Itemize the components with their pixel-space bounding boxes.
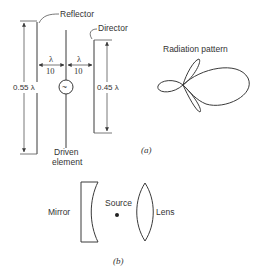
- spacing-dimension-right: λ 10: [68, 54, 92, 76]
- source-symbol: ~: [62, 82, 67, 92]
- optical-analogy-diagram: Mirror Source Lens (b): [48, 182, 174, 266]
- reflector-leader: [39, 14, 59, 23]
- radiation-pattern-label: Radiation pattern: [163, 44, 228, 54]
- lens-label: Lens: [156, 207, 174, 217]
- director-label: Director: [98, 23, 128, 33]
- yagi-antenna-diagram: 0.55 λ Reflector ~ Driven element λ 10 λ…: [12, 9, 249, 167]
- reflector-length-label: 0.55 λ: [13, 83, 35, 92]
- mirror-shape: [81, 182, 98, 242]
- svg-text:λ: λ: [49, 54, 54, 64]
- driven-element-label-line1: Driven: [54, 147, 79, 157]
- mirror-label: Mirror: [48, 207, 70, 217]
- svg-text:10: 10: [46, 66, 55, 76]
- source-label: Source: [105, 198, 132, 208]
- svg-text:10: 10: [74, 66, 83, 76]
- reflector-label: Reflector: [60, 9, 94, 19]
- driven-element-label-line2: element: [52, 157, 83, 167]
- spacing-dimension-left: λ 10: [39, 54, 64, 76]
- director-leader: [90, 29, 97, 39]
- radiation-pattern-plot: [158, 59, 249, 112]
- director-length-label: 0.45 λ: [97, 83, 119, 92]
- source-point: [115, 213, 119, 217]
- caption-b: (b): [113, 256, 124, 266]
- svg-text:λ: λ: [77, 54, 82, 64]
- caption-a: (a): [141, 145, 152, 155]
- lens-shape: [137, 183, 154, 241]
- antenna-diagram-figure: 0.55 λ Reflector ~ Driven element λ 10 λ…: [0, 0, 264, 280]
